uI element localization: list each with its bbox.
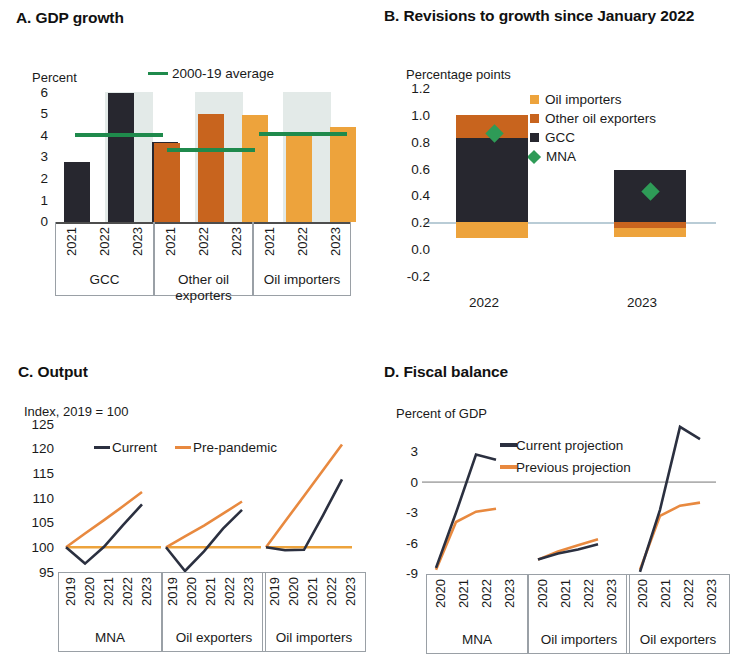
panel-d-xtick-oilexp-0: 2020 bbox=[635, 579, 650, 608]
bar-b-2022-gcc bbox=[456, 138, 528, 223]
panel-a-group-label-gcc: GCC bbox=[55, 272, 154, 288]
panel-a-xtick-5: 2023 bbox=[229, 227, 244, 256]
panel-a-ytick-4: 2 bbox=[26, 171, 48, 186]
panel-b-ytick-6: 0.0 bbox=[392, 242, 430, 257]
panel-a-legend-label: 2000-19 average bbox=[172, 66, 274, 81]
line-c-oilimp-pre-pandemic bbox=[266, 445, 342, 548]
bar-b-2022-oil-importers-negative bbox=[456, 222, 528, 238]
panel-d-xtick-oilexp-1: 2021 bbox=[658, 579, 673, 608]
panel-c-xtick-mna-0: 2019 bbox=[63, 577, 78, 606]
panel-d-fiscal-balance: D. Fiscal balance Percent of GDP Current… bbox=[378, 348, 730, 656]
average-line-other-exporters bbox=[167, 148, 255, 152]
panel-a-ytick-0: 6 bbox=[26, 85, 48, 100]
panel-d-title: D. Fiscal balance bbox=[384, 362, 508, 382]
panel-d-ytick-4: -9 bbox=[392, 566, 418, 581]
panel-a-ytick-6: 0 bbox=[26, 214, 48, 229]
panel-a-xtick-1: 2022 bbox=[97, 227, 112, 256]
panel-c-ytick-5: 100 bbox=[16, 540, 54, 555]
line-d-oilimp-current bbox=[538, 544, 598, 559]
panel-c-group-label-oil-exporters: Oil exporters bbox=[162, 630, 266, 646]
panel-c-xtick-oilexp-1: 2020 bbox=[184, 577, 199, 606]
panel-d-xtick-oilimp-1: 2021 bbox=[558, 579, 573, 608]
panel-d-xtick-mna-2: 2022 bbox=[479, 579, 494, 608]
bar-gcc-2021 bbox=[64, 162, 90, 222]
bar-gcc-2022 bbox=[108, 93, 134, 222]
panel-a-title: A. GDP growth bbox=[16, 8, 124, 28]
panel-b-plot bbox=[436, 88, 716, 276]
panel-c-xtick-oilimp-2: 2021 bbox=[305, 577, 320, 606]
panel-d-group-label-mna: MNA bbox=[426, 632, 528, 648]
panel-c-xtick-oilexp-2: 2021 bbox=[203, 577, 218, 606]
panel-c-output: C. Output Index, 2019 = 100 Current Pre-… bbox=[8, 348, 368, 656]
panel-d-xtick-oilimp-2: 2022 bbox=[581, 579, 596, 608]
panel-d-xtick-mna-1: 2021 bbox=[456, 579, 471, 608]
panel-d-ytick-0: 3 bbox=[392, 444, 418, 459]
line-c-mna-current bbox=[66, 504, 142, 563]
panel-a-group-label-other: Other oil exporters bbox=[154, 272, 253, 303]
panel-a-plot: #a-plot .bar[data-name^="bar-other"]{mar… bbox=[55, 92, 351, 222]
panel-c-ytick-3: 110 bbox=[16, 491, 54, 506]
average-line-swatch bbox=[148, 72, 168, 76]
panel-c-ytick-4: 105 bbox=[16, 515, 54, 530]
line-d-oilexp-current bbox=[640, 427, 700, 572]
panel-c-ytick-0: 125 bbox=[16, 417, 54, 432]
panel-a-xtick-8: 2023 bbox=[328, 227, 343, 256]
panel-b-ytick-1: 1.0 bbox=[392, 108, 430, 123]
panel-a-axis-title: Percent bbox=[32, 70, 77, 85]
panel-a-xtick-0: 2021 bbox=[64, 227, 79, 256]
panel-a-gdp-growth: A. GDP growth Percent 2000-19 average #a… bbox=[8, 4, 368, 334]
panel-c-xtick-mna-2: 2021 bbox=[101, 577, 116, 606]
panel-c-title: C. Output bbox=[18, 362, 88, 382]
line-c-oilexp-pre-pandemic bbox=[166, 502, 242, 548]
panel-d-axis-title: Percent of GDP bbox=[396, 406, 487, 421]
panel-c-ytick-6: 95 bbox=[16, 565, 54, 580]
panel-b-xtick-2022: 2022 bbox=[434, 295, 534, 311]
panel-d-group-label-oil-exporters: Oil exporters bbox=[626, 632, 730, 648]
panel-c-ytick-2: 115 bbox=[16, 466, 54, 481]
panel-d-xtick-oilimp-0: 2020 bbox=[535, 579, 550, 608]
panel-d-group-label-oil-importers: Oil importers bbox=[528, 632, 630, 648]
bar-oil-importers-2023 bbox=[330, 127, 356, 222]
panel-a-xtick-7: 2022 bbox=[295, 227, 310, 256]
panel-a-ytick-1: 5 bbox=[26, 106, 48, 121]
average-line-gcc bbox=[75, 133, 163, 137]
panel-b-ytick-7: -0.2 bbox=[386, 269, 430, 284]
bar-oil-importers-2022 bbox=[286, 133, 312, 222]
line-c-oilimp-current bbox=[266, 479, 342, 550]
panel-d-xtick-oilexp-3: 2023 bbox=[704, 579, 719, 608]
panel-a-xtick-2: 2023 bbox=[130, 227, 145, 256]
bar-oil-importers-2021 bbox=[242, 115, 268, 222]
panel-d-ytick-2: -3 bbox=[392, 505, 418, 520]
line-c-mna-pre-pandemic bbox=[66, 492, 142, 547]
panel-a-group-label-importers: Oil importers bbox=[252, 272, 352, 288]
panel-d-xtick-mna-0: 2020 bbox=[433, 579, 448, 608]
panel-a-ytick-3: 3 bbox=[26, 149, 48, 164]
panel-a-ytick-5: 1 bbox=[26, 193, 48, 208]
panel-b-ytick-3: 0.6 bbox=[392, 162, 430, 177]
panel-b-title: B. Revisions to growth since January 202… bbox=[384, 6, 729, 26]
panel-a-ytick-2: 4 bbox=[26, 128, 48, 143]
panel-c-xtick-oilexp-4: 2023 bbox=[241, 577, 256, 606]
panel-b-ytick-4: 0.4 bbox=[392, 188, 430, 203]
panel-c-xtick-mna-1: 2020 bbox=[82, 577, 97, 606]
bar-other-exporters-2022 bbox=[198, 114, 224, 222]
panel-b-xtick-2023: 2023 bbox=[592, 295, 692, 311]
panel-b-ytick-0: 1.2 bbox=[392, 81, 430, 96]
panel-c-xtick-oilexp-3: 2022 bbox=[222, 577, 237, 606]
panel-d-xtick-oilexp-2: 2022 bbox=[681, 579, 696, 608]
panel-c-xtick-oilimp-3: 2022 bbox=[324, 577, 339, 606]
panel-c-xtick-oilimp-1: 2020 bbox=[286, 577, 301, 606]
panel-d-xtick-mna-3: 2023 bbox=[502, 579, 517, 608]
panel-d-ytick-1: 0 bbox=[392, 475, 418, 490]
panel-b-revisions: B. Revisions to growth since January 202… bbox=[378, 2, 730, 332]
panel-d-svg bbox=[426, 426, 716, 574]
panel-d-plot bbox=[426, 426, 716, 574]
panel-c-group-label-oil-importers: Oil importers bbox=[262, 630, 366, 646]
average-line-oil-importers bbox=[259, 132, 347, 136]
panel-a-xtick-6: 2021 bbox=[262, 227, 277, 256]
panel-c-xtick-oilexp-0: 2019 bbox=[165, 577, 180, 606]
panel-c-xtick-oilimp-0: 2019 bbox=[267, 577, 282, 606]
panel-c-plot bbox=[58, 424, 355, 572]
line-d-oilexp-previous bbox=[640, 503, 700, 570]
panel-b-ytick-2: 0.8 bbox=[392, 135, 430, 150]
